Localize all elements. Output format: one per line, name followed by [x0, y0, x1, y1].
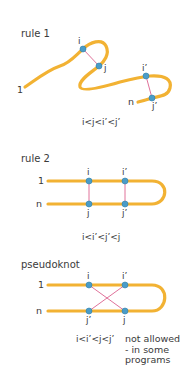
pseudoknot-label-i: i [87, 271, 90, 282]
rule2-base-jprime [122, 201, 128, 207]
pseudoknot-base-j [122, 308, 128, 314]
rule1-condition: i<j<i’<j’ [82, 117, 120, 128]
pseudoknot-label-j: j [123, 315, 126, 326]
rule1-end-start: 1 [17, 84, 23, 95]
rule2-end-start: 1 [38, 175, 44, 186]
rule1-diagram [25, 42, 170, 102]
rna-pairing-diagram [0, 0, 192, 385]
pseudoknot-base-iprime [122, 282, 128, 288]
pseudoknot-end-start: 1 [38, 279, 44, 290]
pseudoknot-base-jprime [86, 308, 92, 314]
rule2-label-jprime: j’ [122, 208, 127, 219]
pseudoknot-label-iprime: i’ [122, 271, 127, 282]
rule2-label-iprime: i’ [122, 167, 127, 178]
pseudoknot-condition: i<i’<j<j’ [76, 334, 114, 345]
pseudoknot-label-jprime: j’ [86, 315, 91, 326]
rule1-title: rule 1 [21, 28, 50, 39]
rule2-title: rule 2 [21, 153, 50, 164]
rule2-base-iprime [122, 178, 128, 184]
rule1-pair-iprime-jprime [146, 76, 152, 98]
rule2-base-j [86, 201, 92, 207]
rule1-strand [25, 42, 170, 102]
rule2-diagram [48, 178, 165, 207]
rule2-condition: i<i’<j’<j [82, 232, 120, 243]
rule1-label-j: j [104, 63, 107, 74]
rule1-end-stop: n [128, 96, 134, 107]
rule2-base-i [86, 178, 92, 184]
rule2-strand [48, 181, 165, 204]
rule1-label-jprime: j’ [152, 101, 157, 112]
rule2-label-j: j [87, 208, 90, 219]
rule1-label-iprime: i’ [142, 63, 147, 74]
pseudoknot-note: not allowed - in some programs [125, 334, 185, 366]
pseudoknot-diagram [48, 282, 165, 314]
rule1-base-i [80, 46, 86, 52]
rule2-end-stop: n [36, 198, 42, 209]
pseudoknot-title: pseudoknot [21, 259, 80, 270]
pseudoknot-end-stop: n [36, 305, 42, 316]
rule1-base-j [96, 63, 102, 69]
rule1-label-i: i [78, 36, 81, 47]
pseudoknot-base-i [86, 282, 92, 288]
rule1-pair-i-j [83, 49, 99, 66]
rule2-label-i: i [87, 167, 90, 178]
